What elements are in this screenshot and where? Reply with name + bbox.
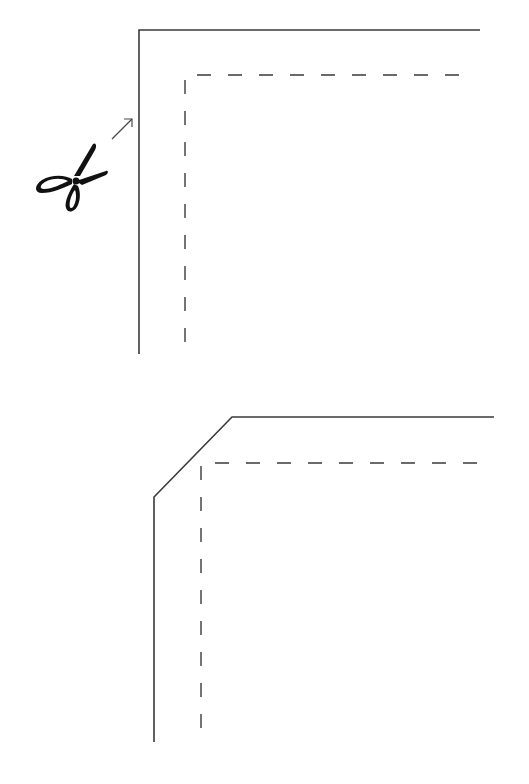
seam-line-square-2 bbox=[201, 463, 482, 728]
panel-before-trim bbox=[36, 30, 480, 354]
seam-line-square bbox=[185, 75, 468, 342]
scissors-icon bbox=[36, 143, 108, 211]
cut-edge-clipped bbox=[154, 417, 494, 742]
cut-edge-square bbox=[139, 30, 480, 354]
diagram-canvas bbox=[0, 0, 529, 784]
panel-after-trim bbox=[154, 417, 494, 742]
arrow-icon bbox=[112, 119, 132, 139]
